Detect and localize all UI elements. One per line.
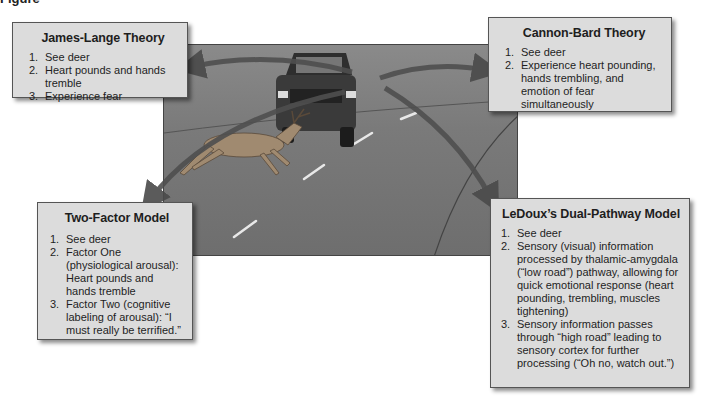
cannon-bard-steps: 1.See deer 2.Experience heart pounding, …	[505, 46, 663, 111]
list-item: 1.See deer	[50, 233, 184, 246]
james-lange-title: James-Lange Theory	[29, 31, 177, 45]
road-scene-graphic	[164, 45, 518, 256]
ledoux-steps: 1.See deer 2.Sensory (visual) informatio…	[501, 227, 681, 370]
road-scene-illustration	[163, 44, 518, 256]
list-item: 2.Sensory (visual) information processed…	[501, 240, 681, 318]
ledoux-title: LeDoux’s Dual-Pathway Model	[501, 207, 681, 221]
list-item: 3.Experience fear	[29, 90, 177, 103]
two-factor-box: Two-Factor Model 1.See deer 2.Factor One…	[37, 202, 193, 340]
list-item: 1.See deer	[501, 227, 681, 240]
list-item: 2.Experience heart pounding, hands tremb…	[505, 59, 663, 111]
two-factor-steps: 1.See deer 2.Factor One (physiological a…	[50, 233, 184, 337]
list-item: 1.See deer	[29, 51, 177, 64]
two-factor-title: Two-Factor Model	[50, 211, 184, 225]
cannon-bard-box: Cannon-Bard Theory 1.See deer 2.Experien…	[488, 17, 672, 112]
james-lange-box: James-Lange Theory 1.See deer 2.Heart po…	[12, 22, 188, 98]
cannon-bard-title: Cannon-Bard Theory	[505, 26, 663, 40]
ledoux-box: LeDoux’s Dual-Pathway Model 1.See deer 2…	[490, 198, 690, 388]
list-item: 2.Factor One (physiological arousal): He…	[50, 246, 184, 298]
list-item: 2.Heart pounds and hands tremble	[29, 64, 177, 90]
list-item: 3.Factor Two (cognitive labeling of arou…	[50, 298, 184, 337]
list-item: 3.Sensory information passes through “hi…	[501, 318, 681, 370]
list-item: 1.See deer	[505, 46, 663, 59]
lane-markings	[234, 113, 416, 237]
figure-caption: Figure	[0, 0, 40, 6]
james-lange-steps: 1.See deer 2.Heart pounds and hands trem…	[29, 51, 177, 103]
